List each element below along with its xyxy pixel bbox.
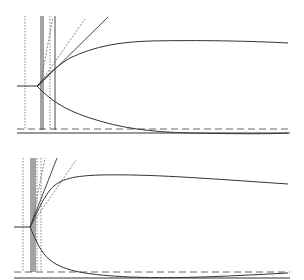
upper-branch-curve: [37, 41, 288, 86]
solid-tangent-line: [30, 158, 57, 227]
upper-branch-curve: [30, 175, 288, 227]
lower-branch-curve: [30, 227, 288, 278]
dotted-tangent-line: [38, 19, 85, 86]
solid-tangent-line: [38, 17, 108, 86]
bifurcation-diagram: [0, 0, 304, 280]
dotted-tangent-line: [40, 17, 53, 86]
lower-branch-curve: [37, 86, 288, 134]
top-panel: [17, 16, 290, 134]
diagram-canvas: [0, 0, 304, 280]
bottom-panel: [14, 158, 290, 278]
